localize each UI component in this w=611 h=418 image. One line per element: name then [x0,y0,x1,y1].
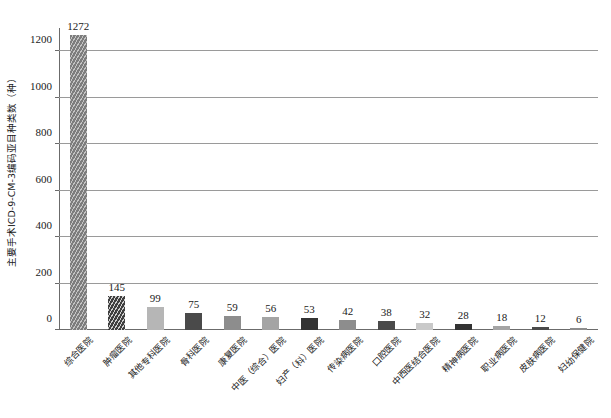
y-tick-label: 1200 [30,33,52,45]
gridline [59,283,598,284]
y-tick-mark [55,283,59,284]
x-tick-label: 职业病医院 [478,334,519,375]
bar-value-label: 53 [304,303,315,315]
bar-value-label: 28 [458,309,469,321]
bar-value-label: 18 [496,311,507,323]
bar: 1272 [70,35,87,330]
y-tick-label: 200 [36,266,53,278]
bar-value-label: 6 [576,313,582,325]
x-tick-label: 口腔医院 [369,334,404,369]
y-tick-label: 600 [36,173,53,185]
x-tick-label: 妇幼保健院 [555,334,596,375]
bar: 75 [185,313,202,330]
bar-value-label: 32 [419,308,430,320]
bar-value-label: 42 [342,305,353,317]
bar-value-label: 145 [109,281,126,293]
bar-chart: 主要手术ICD-9-CM-3编码亚目种类数（种） 020040060080010… [0,0,611,418]
x-tick-label: 皮肤病医院 [516,334,557,375]
x-tick-label: 综合医院 [61,334,96,369]
y-tick-mark [55,236,59,237]
x-tick-label: 精神病医院 [439,334,480,375]
y-tick-mark [55,97,59,98]
y-tick-label: 400 [36,219,53,231]
y-tick-label: 0 [47,312,53,324]
bar-value-label: 59 [227,301,238,313]
gridline [59,236,598,237]
plot-frame [59,28,598,330]
bar: 145 [108,296,125,330]
y-tick-mark [55,143,59,144]
bar-value-label: 12 [535,312,546,324]
x-tick-label: 骨科医院 [176,334,211,369]
bar-value-label: 75 [188,298,199,310]
bar-value-label: 56 [265,302,276,314]
bar: 28 [455,324,472,331]
y-tick-mark [55,190,59,191]
y-tick-mark [55,50,59,51]
bar: 32 [416,323,433,330]
gridline [59,143,598,144]
bar: 59 [224,316,241,330]
bar-value-label: 38 [381,306,392,318]
gridline [59,97,598,98]
bar: 56 [262,317,279,330]
bar: 42 [339,320,356,330]
gridline [59,190,598,191]
y-tick-mark [55,329,59,330]
bar: 18 [493,326,510,330]
bar-value-label: 1272 [67,20,89,32]
bar: 38 [378,321,395,330]
y-tick-label: 1000 [30,80,52,92]
x-tick-label: 传染病医院 [324,334,365,375]
y-tick-label: 800 [36,126,53,138]
x-tick-label: 康复医院 [215,334,250,369]
bar: 12 [532,327,549,330]
bar-value-label: 99 [150,292,161,304]
y-axis-title: 主要手术ICD-9-CM-3编码亚目种类数（种） [0,0,22,340]
gridline [59,50,598,51]
bar: 53 [301,318,318,330]
x-tick-label: 肿瘤医院 [99,334,134,369]
bar: 6 [570,328,587,330]
plot-area: 020040060080010001200 127214599755956534… [59,28,598,330]
bar: 99 [147,307,164,330]
y-axis-title-text: 主要手术ICD-9-CM-3编码亚目种类数（种） [4,73,18,267]
